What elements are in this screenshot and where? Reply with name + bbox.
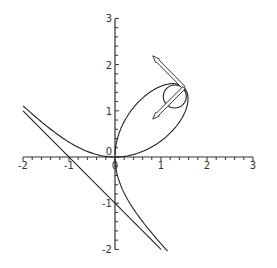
y-tick-label: -1: [102, 198, 112, 209]
y-tick-label: 1: [106, 106, 112, 117]
asymptote-line: [23, 111, 161, 250]
x-tick-label: -1: [64, 160, 74, 171]
x-tick-label: 3: [250, 160, 256, 171]
folium-plot: -2-1123-2-112300: [0, 0, 277, 268]
y-tick-label: -2: [102, 244, 112, 255]
origin-label: 0: [106, 146, 112, 157]
x-tick-label: 1: [158, 160, 164, 171]
normal-arrow: [153, 87, 185, 120]
y-tick-label: 2: [106, 60, 112, 71]
y-tick-label: 3: [106, 13, 112, 24]
x-tick-label: -2: [18, 160, 28, 171]
x-tick-label: 2: [204, 160, 210, 171]
tick-labels: -2-1123-2-112300: [18, 13, 256, 255]
